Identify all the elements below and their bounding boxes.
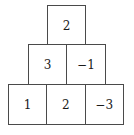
pyramid-cell-r2-c2: −3 xyxy=(85,84,124,125)
pyramid-row-top: 2 xyxy=(47,5,86,46)
number-pyramid-figure: 2 3 −1 1 2 −3 xyxy=(0,0,134,135)
pyramid-row-bottom: 1 2 −3 xyxy=(8,85,124,125)
pyramid-cell-r1-c1: −1 xyxy=(66,44,105,85)
pyramid-cell-r2-c0: 1 xyxy=(8,84,47,125)
pyramid-cell-r1-c0: 3 xyxy=(28,44,67,85)
pyramid-cell-r2-c1: 2 xyxy=(46,84,85,125)
pyramid-cell-r0-c0: 2 xyxy=(47,5,86,46)
pyramid-row-middle: 3 −1 xyxy=(28,45,106,85)
